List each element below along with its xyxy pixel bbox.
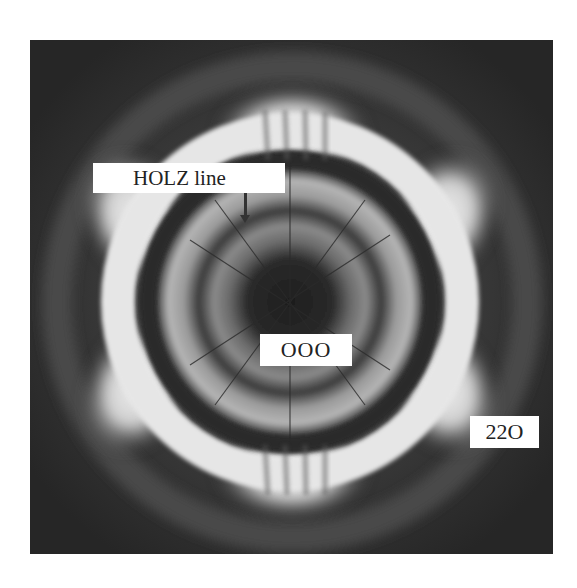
holz-arrow-icon — [244, 193, 247, 217]
diffraction-pattern-image — [30, 40, 553, 554]
ooo-disc-label: OOO — [260, 334, 352, 366]
220-disc-label: 22O — [470, 416, 539, 448]
cbed-pattern — [30, 40, 553, 554]
holz-line-label: HOLZ line — [93, 163, 285, 193]
